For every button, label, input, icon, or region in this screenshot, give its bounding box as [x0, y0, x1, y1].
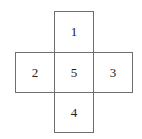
cell-top: 1 — [54, 11, 94, 53]
cell-center: 5 — [54, 52, 94, 93]
cell-right: 3 — [93, 52, 133, 93]
cell-left: 2 — [15, 52, 55, 93]
cell-bottom: 4 — [54, 92, 94, 133]
